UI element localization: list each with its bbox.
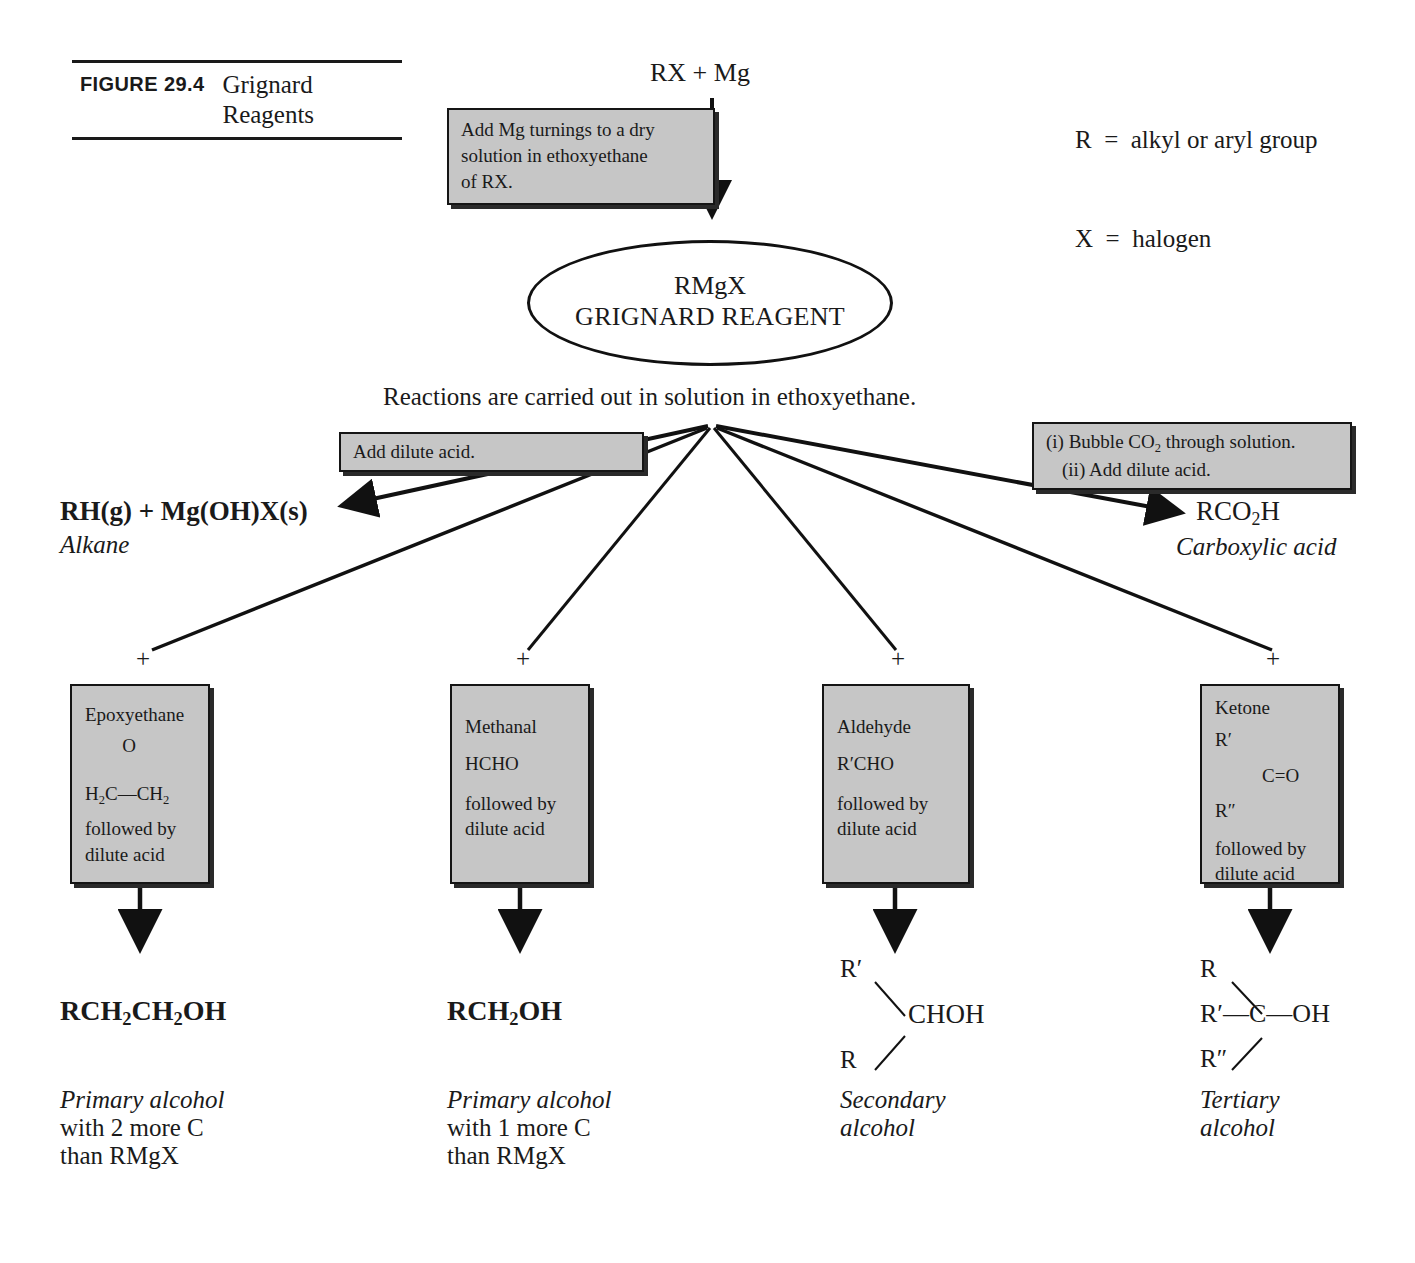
secondary-r: R <box>840 1046 985 1074</box>
methanal-formula: HCHO <box>452 751 588 776</box>
grignard-reagent-node: RMgX GRIGNARD REAGENT <box>527 240 893 366</box>
co2-line1: (i) Bubble CO2 through solution. <box>1046 429 1340 457</box>
reagent-box-ketone: Ketone R′ C=O R″ followed by dilute acid <box>1200 684 1340 884</box>
carboxylic-product-group: RCO2H Carboxylic acid <box>1196 496 1336 561</box>
reagent-box-methanal: Methanal HCHO followed by dilute acid <box>450 684 590 884</box>
figure-title-line2: Reagents <box>222 100 314 130</box>
step1-line3: of RX. <box>461 169 703 195</box>
epoxyethane-name: Epoxyethane <box>72 702 208 727</box>
secondary-choh: CHOH <box>908 999 985 1030</box>
plus-sign-3: + <box>891 645 905 673</box>
reagent-box-aldehyde: Aldehyde R′CHO followed by dilute acid <box>822 684 970 884</box>
epoxyethane-condition-2: dilute acid <box>72 842 208 867</box>
caption-branch-2: Primary alcohol with 1 more C than RMgX <box>447 1086 612 1170</box>
tertiary-r-prime: R′ <box>1200 999 1223 1028</box>
legend-line-x: X = halogen <box>1075 222 1318 255</box>
tertiary-c-oh: —C—OH <box>1223 999 1330 1028</box>
step1-line1: Add Mg turnings to a dry <box>461 117 703 143</box>
step1-instruction-box: Add Mg turnings to a dry solution in eth… <box>447 108 715 205</box>
product-secondary-alcohol: R′ CHOH R <box>840 955 985 1074</box>
alkane-formula: RH(g) + Mg(OH)X(s) <box>60 496 308 527</box>
product-primary-alcohol-1c: RCH2OH <box>447 995 562 1030</box>
methanal-name: Methanal <box>452 714 588 739</box>
caption4-line2: alcohol <box>1200 1114 1280 1142</box>
co2-line2: (ii) Add dilute acid. <box>1046 457 1340 483</box>
left-branch-instruction-box: Add dilute acid. <box>339 432 644 472</box>
legend-line-r: R = alkyl or aryl group <box>1075 123 1318 156</box>
caption2-line1: Primary alcohol <box>447 1086 612 1114</box>
epoxyethane-oxygen: O <box>72 733 208 758</box>
caption4-line1: Tertiary <box>1200 1086 1280 1114</box>
caption-branch-3: Secondary alcohol <box>840 1086 946 1142</box>
methanal-condition-2: dilute acid <box>452 816 588 841</box>
figure-number: FIGURE 29.4 <box>80 70 204 129</box>
ketone-r-prime: R′ <box>1202 727 1338 752</box>
grignard-formula: RMgX <box>674 272 746 301</box>
tertiary-backbone: R′—C—OH <box>1200 999 1330 1029</box>
start-reagents: RX + Mg <box>650 58 750 88</box>
ketone-r-double-prime: R″ <box>1202 798 1338 823</box>
step1-line2: solution in ethoxyethane <box>461 143 703 169</box>
caption-rule-bottom <box>72 137 402 140</box>
ketone-name: Ketone <box>1202 695 1338 720</box>
figure-caption: FIGURE 29.4 Grignard Reagents <box>72 60 402 140</box>
caption1-line3: than RMgX <box>60 1142 225 1170</box>
aldehyde-condition-1: followed by <box>824 791 968 816</box>
alkane-product-group: RH(g) + Mg(OH)X(s) Alkane <box>60 496 308 559</box>
aldehyde-condition-2: dilute acid <box>824 816 968 841</box>
carboxylic-formula: RCO2H <box>1196 496 1336 530</box>
methanal-condition-1: followed by <box>452 791 588 816</box>
tertiary-r-double-prime: R″ <box>1200 1045 1330 1073</box>
reagent-box-epoxyethane: Epoxyethane O H2C—CH2 followed by dilute… <box>70 684 210 884</box>
caption1-line2: with 2 more C <box>60 1114 225 1142</box>
ketone-carbonyl: C=O <box>1202 763 1338 788</box>
alkane-class: Alkane <box>60 531 308 559</box>
caption2-line3: than RMgX <box>447 1142 612 1170</box>
caption3-line1: Secondary <box>840 1086 946 1114</box>
caption-branch-4: Tertiary alcohol <box>1200 1086 1280 1142</box>
plus-sign-4: + <box>1266 645 1280 673</box>
caption3-line2: alcohol <box>840 1114 946 1142</box>
figure-title: Grignard Reagents <box>222 70 314 129</box>
caption-branch-1: Primary alcohol with 2 more C than RMgX <box>60 1086 225 1170</box>
aldehyde-formula: R′CHO <box>824 751 968 776</box>
symbol-legend: R = alkyl or aryl group X = halogen <box>1075 57 1318 321</box>
ketone-condition-2: dilute acid <box>1202 861 1338 886</box>
caption2-line2: with 1 more C <box>447 1114 612 1142</box>
epoxyethane-backbone: H2C—CH2 <box>72 781 208 808</box>
secondary-r-prime: R′ <box>840 955 985 983</box>
plus-sign-1: + <box>136 645 150 673</box>
figure-title-line1: Grignard <box>222 70 314 100</box>
figure-canvas: FIGURE 29.4 Grignard Reagents R = alkyl … <box>0 0 1415 1263</box>
solvent-note: Reactions are carried out in solution in… <box>383 383 916 411</box>
left-branch-label: Add dilute acid. <box>353 439 632 465</box>
right-branch-instruction-box: (i) Bubble CO2 through solution. (ii) Ad… <box>1032 422 1352 490</box>
product-tertiary-alcohol: R R′—C—OH R″ <box>1200 955 1330 1073</box>
ketone-condition-1: followed by <box>1202 836 1338 861</box>
product-primary-alcohol-2c: RCH2CH2OH <box>60 995 226 1030</box>
carboxylic-class: Carboxylic acid <box>1176 533 1336 561</box>
grignard-name: GRIGNARD REAGENT <box>575 301 845 334</box>
epoxyethane-condition-1: followed by <box>72 816 208 841</box>
plus-sign-2: + <box>516 645 530 673</box>
aldehyde-name: Aldehyde <box>824 714 968 739</box>
caption1-line1: Primary alcohol <box>60 1086 225 1114</box>
tertiary-r: R <box>1200 955 1330 983</box>
